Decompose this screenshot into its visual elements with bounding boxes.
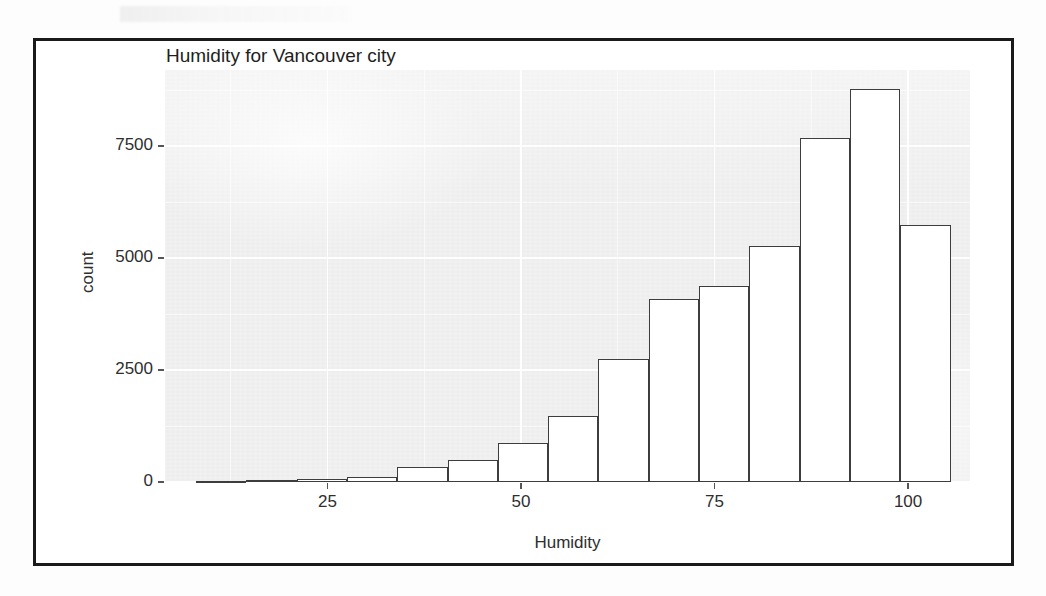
gridline-vertical-minor xyxy=(424,70,425,482)
y-tick-label: 5000 xyxy=(60,247,153,267)
x-tick-label: 50 xyxy=(481,492,561,512)
histogram-bar xyxy=(800,138,850,482)
histogram-bar xyxy=(498,443,548,482)
histogram-bar xyxy=(850,89,900,482)
x-tick-mark xyxy=(714,483,716,489)
y-tick-mark xyxy=(158,369,164,371)
histogram-bar xyxy=(448,460,498,482)
y-tick-label: 0 xyxy=(60,471,153,491)
x-tick-mark xyxy=(520,483,522,489)
histogram-bar xyxy=(598,359,648,482)
gridline-vertical-major xyxy=(520,70,522,482)
histogram-bar xyxy=(749,246,799,482)
x-tick-label: 75 xyxy=(675,492,755,512)
histogram-plot: Humidity for Vancouver city 025005000750… xyxy=(36,41,1017,569)
histogram-bar xyxy=(699,286,749,482)
page-title: Humidity for Vancouver city xyxy=(166,45,396,67)
histogram-bar xyxy=(196,481,246,483)
y-tick-label: 2500 xyxy=(60,359,153,379)
figure-frame: Humidity for Vancouver city 025005000750… xyxy=(33,38,1014,566)
histogram-bar xyxy=(900,225,950,482)
x-tick-mark xyxy=(327,483,329,489)
histogram-bar xyxy=(246,480,296,482)
x-tick-mark xyxy=(907,483,909,489)
scan-artifact xyxy=(120,6,350,22)
y-tick-mark xyxy=(158,145,164,147)
plot-panel xyxy=(165,70,970,482)
histogram-bar xyxy=(397,467,447,482)
y-tick-label: 7500 xyxy=(60,135,153,155)
gridline-vertical-minor xyxy=(230,70,231,482)
gridline-vertical-major xyxy=(327,70,329,482)
x-axis-title: Humidity xyxy=(165,533,970,553)
histogram-bar xyxy=(649,299,699,482)
histogram-bar xyxy=(347,477,397,482)
histogram-bar xyxy=(297,479,347,482)
scanned-page: Humidity for Vancouver city 025005000750… xyxy=(0,0,1046,596)
x-tick-label: 100 xyxy=(868,492,948,512)
y-axis-title: count xyxy=(78,251,98,293)
y-tick-mark xyxy=(158,481,164,483)
x-tick-label: 25 xyxy=(288,492,368,512)
histogram-bar xyxy=(548,416,598,482)
y-tick-mark xyxy=(158,257,164,259)
